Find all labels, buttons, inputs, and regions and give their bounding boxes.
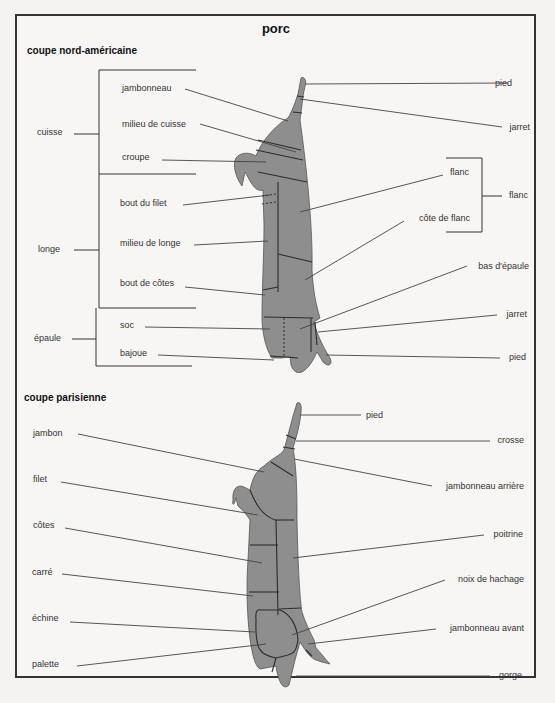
label-jambonneau-arriere: jambonneau arrière [445,481,524,491]
label-croupe: croupe [122,152,150,162]
label-soc: soc [120,320,135,330]
label-pied-parisian: pied [366,410,383,420]
label-bout-de-cotes: bout de côtes [120,278,175,288]
section-heading-parisian: coupe parisienne [24,392,107,403]
group-label-flanc: flanc [509,190,529,200]
label-jambonneau-avant: jambonneau avant [449,623,525,633]
label-carre: carré [32,567,53,577]
label-bajoue: bajoue [120,348,147,358]
label-bas-d-epaule: bas d'épaule [478,261,529,271]
label-pied-top: pied [495,78,512,88]
label-crosse: crosse [497,435,524,445]
page-title: porc [262,21,290,36]
label-echine: échine [32,613,59,623]
label-milieu-de-cuisse: milieu de cuisse [122,119,186,129]
pa-left-labels: jambon filet côtes carré échine palette [32,428,266,669]
label-flanc: flanc [450,167,470,177]
group-label-epaule: épaule [34,333,61,343]
label-cote-de-flanc: côte de flanc [419,213,471,223]
label-bout-du-filet: bout du filet [120,198,167,208]
label-poitrine: poitrine [493,529,523,539]
label-gorge: gorge [499,670,522,680]
na-right-labels: pied jarret flanc côte de flanc bas d'ép… [300,78,530,362]
label-jarret-top: jarret [508,122,530,132]
group-label-cuisse: cuisse [37,127,63,137]
label-pied-bottom: pied [509,352,526,362]
section-heading-north-american: coupe nord-américaine [27,45,137,56]
label-cotes: côtes [33,520,55,530]
label-palette: palette [32,659,59,669]
label-jarret-bottom: jarret [505,309,527,319]
label-noix-de-hachage: noix de hachage [458,574,524,584]
pork-carcass-parisian [233,402,330,686]
pa-right-labels: pied crosse jambonneau arrière poitrine … [292,410,524,680]
label-filet: filet [33,474,48,484]
label-milieu-de-longe: milieu de longe [120,238,181,248]
label-jambon: jambon [32,428,63,438]
label-jambonneau: jambonneau [121,83,172,93]
group-label-longe: longe [38,244,60,254]
pork-cuts-diagram: porc coupe nord-américaine [0,0,555,703]
